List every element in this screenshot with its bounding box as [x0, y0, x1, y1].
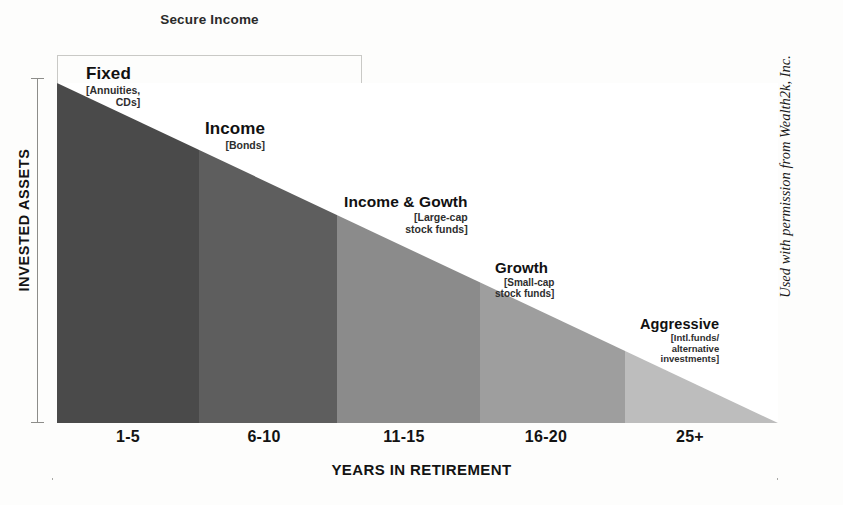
band-growth: [480, 83, 625, 423]
y-axis-bracket: [37, 78, 38, 423]
asset-wedge: [57, 83, 778, 423]
category-title-income: Income: [205, 119, 265, 139]
category-title-income-growth: Income & Gowth: [344, 193, 468, 211]
figure-canvas: Secure Income Riskier Investments INVEST…: [0, 0, 843, 505]
category-title-aggressive: Aggressive: [640, 316, 719, 332]
category-subtitle-income: [Bonds]: [205, 140, 265, 152]
band-fixed: [57, 83, 199, 423]
category-subtitle-aggressive: [Intl.funds/ alternative investments]: [640, 333, 719, 365]
band-income-growth: [337, 83, 480, 423]
x-tick-5: 25+: [640, 428, 740, 446]
category-label-aggressive: Aggressive [Intl.funds/ alternative inve…: [640, 316, 719, 365]
group-header-secure-income: Secure Income: [57, 12, 362, 27]
x-tick-4: 16-20: [496, 428, 596, 446]
category-label-fixed: Fixed [Annuities, CDs]: [86, 64, 140, 109]
category-label-growth: Growth [Small-cap stock funds]: [495, 259, 554, 299]
x-axis-label: YEARS IN RETIREMENT: [0, 461, 843, 478]
category-subtitle-fixed: [Annuities, CDs]: [86, 85, 140, 109]
y-axis-label: INVESTED ASSETS: [16, 130, 32, 310]
band-aggressive: [625, 83, 778, 423]
x-tick-2: 6-10: [214, 428, 314, 446]
x-axis-label-text: YEARS IN RETIREMENT: [321, 461, 521, 478]
attribution-credit: Used with permission from Wealth2k, Inc.: [777, 27, 794, 327]
category-subtitle-income-growth: [Large-cap stock funds]: [344, 212, 468, 236]
category-label-income-growth: Income & Gowth [Large-cap stock funds]: [344, 193, 468, 236]
category-subtitle-growth: [Small-cap stock funds]: [495, 277, 554, 299]
category-title-growth: Growth: [495, 259, 554, 276]
x-tick-1: 1-5: [78, 428, 178, 446]
x-tick-3: 11-15: [354, 428, 454, 446]
category-title-fixed: Fixed: [86, 64, 140, 84]
category-label-income: Income [Bonds]: [205, 119, 265, 152]
